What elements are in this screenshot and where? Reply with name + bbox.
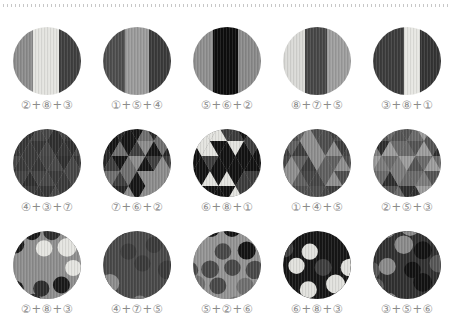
swatch-label: ③+⑤+⑥ xyxy=(381,303,434,315)
pattern-swatch-cell: ⑤+②+⑥ xyxy=(192,231,262,315)
pattern-swatch-cell: ②+⑧+③ xyxy=(12,231,82,315)
swatch-label: ④+⑦+⑤ xyxy=(111,303,164,315)
stripes-pattern-swatch xyxy=(283,27,351,95)
dotted-divider xyxy=(3,4,448,7)
pattern-swatch-cell: ⑧+⑦+⑤ xyxy=(282,27,352,111)
dots-pattern-swatch xyxy=(13,231,81,299)
pattern-swatch-cell: ⑤+⑥+② xyxy=(192,27,262,111)
swatch-label: ③+⑧+① xyxy=(381,99,434,111)
swatch-label: ②+⑧+③ xyxy=(21,99,74,111)
triangles-pattern-swatch xyxy=(373,129,441,197)
pattern-swatch-cell: ①+⑤+④ xyxy=(102,27,172,111)
pattern-swatch-cell: ①+④+⑤ xyxy=(282,129,352,213)
swatch-label: ⑤+②+⑥ xyxy=(201,303,254,315)
stripes-pattern-swatch xyxy=(13,27,81,95)
swatch-label: ⑦+⑥+② xyxy=(111,201,164,213)
dots-pattern-swatch xyxy=(193,231,261,299)
swatch-label: ⑧+⑦+⑤ xyxy=(291,99,344,111)
swatch-label: ⑥+⑧+③ xyxy=(291,303,344,315)
swatch-label: ④+③+⑦ xyxy=(21,201,74,213)
stripes-pattern-swatch xyxy=(103,27,171,95)
swatch-label: ⑥+⑧+① xyxy=(201,201,254,213)
swatch-label: ②+⑤+③ xyxy=(381,201,434,213)
swatch-grid: ②+⑧+③①+⑤+④⑤+⑥+②⑧+⑦+⑤③+⑧+①④+③+⑦⑦+⑥+②⑥+⑧+①… xyxy=(12,27,442,315)
pattern-swatch-cell: ④+③+⑦ xyxy=(12,129,82,213)
triangles-pattern-swatch xyxy=(103,129,171,197)
triangles-pattern-swatch xyxy=(193,129,261,197)
swatch-label: ①+④+⑤ xyxy=(291,201,344,213)
dots-pattern-swatch xyxy=(373,231,441,299)
swatch-label: ⑤+⑥+② xyxy=(201,99,254,111)
stripes-pattern-swatch xyxy=(373,27,441,95)
pattern-swatch-cell: ④+⑦+⑤ xyxy=(102,231,172,315)
stripes-pattern-swatch xyxy=(193,27,261,95)
pattern-swatch-cell: ③+⑤+⑥ xyxy=(372,231,442,315)
pattern-swatch-cell: ③+⑧+① xyxy=(372,27,442,111)
pattern-swatch-cell: ⑦+⑥+② xyxy=(102,129,172,213)
pattern-swatch-cell: ⑥+⑧+① xyxy=(192,129,262,213)
dots-pattern-swatch xyxy=(283,231,351,299)
dots-pattern-swatch xyxy=(103,231,171,299)
triangles-pattern-swatch xyxy=(283,129,351,197)
swatch-label: ①+⑤+④ xyxy=(111,99,164,111)
pattern-swatch-cell: ②+⑤+③ xyxy=(372,129,442,213)
pattern-swatch-cell: ⑥+⑧+③ xyxy=(282,231,352,315)
triangles-pattern-swatch xyxy=(13,129,81,197)
pattern-swatch-cell: ②+⑧+③ xyxy=(12,27,82,111)
swatch-page: ②+⑧+③①+⑤+④⑤+⑥+②⑧+⑦+⑤③+⑧+①④+③+⑦⑦+⑥+②⑥+⑧+①… xyxy=(0,0,451,315)
swatch-label: ②+⑧+③ xyxy=(21,303,74,315)
